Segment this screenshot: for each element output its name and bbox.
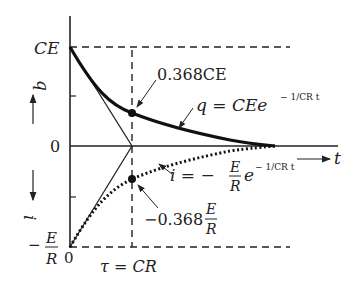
t-axis-label: t: [334, 148, 341, 168]
q-exponent: − 1/CR t: [280, 92, 320, 102]
i-point-label: −0.368: [144, 210, 203, 229]
rc-diagram: CE 0 q i t − E R 0 τ = CR 0.368CE q = CE…: [0, 0, 356, 290]
i-eq-denominator: R: [229, 178, 241, 194]
i-point-numerator: E: [205, 201, 216, 217]
i-eq-numerator: E: [229, 159, 240, 175]
q-point-marker: [128, 109, 136, 117]
q-equation: q = CEe: [196, 95, 267, 115]
i-axis-label: i: [20, 215, 40, 220]
q-point-arrow: [137, 80, 156, 107]
i-point-marker: [128, 175, 136, 183]
i-equation-prefix: i = −: [170, 165, 215, 185]
q-point-label: 0.368CE: [157, 65, 227, 84]
zero-label: 0: [50, 137, 60, 156]
i-point-denominator: R: [205, 221, 217, 237]
i-tangent-line: [70, 146, 132, 247]
neg-e-denominator: R: [45, 250, 57, 268]
i-exponent: − 1/CR t: [255, 162, 295, 172]
neg-sign: −: [28, 236, 41, 254]
i-eq-e: e: [244, 165, 254, 185]
diagram-canvas: CE 0 q i t − E R 0 τ = CR 0.368CE q = CE…: [0, 0, 356, 290]
origin-zero-label: 0: [64, 249, 74, 267]
q-axis-label: q: [33, 80, 53, 91]
q-eq-arrow: [179, 108, 193, 128]
tau-label: τ = CR: [100, 257, 157, 276]
ce-label: CE: [34, 38, 60, 58]
i-point-arrow: [138, 185, 158, 208]
neg-e-numerator: E: [45, 229, 57, 247]
